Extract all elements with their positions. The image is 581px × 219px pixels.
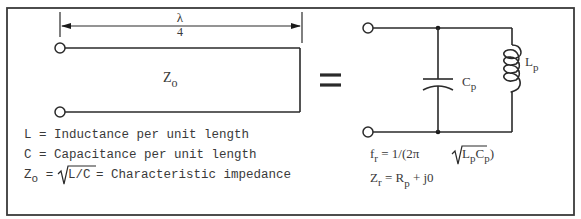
svg-text:Zr = Rp + j0: Zr = Rp + j0 [370,170,434,189]
definition-characteristic-impedance: Zo = L/C = Characteristic impedance [24,166,291,185]
capacitor-label: Cp [462,74,477,92]
line-impedance-label: Zo [163,70,178,90]
svg-text:= Characteristic impedance: = Characteristic impedance [96,168,291,182]
input-terminal-bottom [55,107,65,117]
capacitor-symbol [423,28,453,132]
dimension-label-numerator: λ [177,10,184,25]
inductor-label: Lp [525,54,539,73]
resonant-frequency-equation: fr = 1/(2π LpCp) [370,146,494,164]
output-terminal-bottom [363,127,373,137]
definition-inductance: L = Inductance per unit length [24,128,249,142]
inductor-symbol [504,28,521,132]
output-terminal-top [363,23,373,33]
quarter-wave-line-diagram: λ 4 Zo L = Inductance per unit length C … [0,0,581,219]
svg-text:L/C: L/C [68,168,91,182]
svg-text:fr = 1/(2π: fr = 1/(2π [370,146,420,164]
equivalence-sign [320,75,341,85]
transmission-line-section: λ 4 Zo [55,10,302,117]
svg-text:Zo =: Zo = [24,168,53,185]
definition-capacitance: C = Capacitance per unit length [24,148,257,162]
resonant-impedance-equation: Zr = Rp + j0 [370,170,434,189]
dimension-label-denominator: 4 [177,25,183,39]
parallel-lc-circuit: Cp Lp [363,23,539,137]
input-terminal-top [55,43,65,53]
definitions: L = Inductance per unit length C = Capac… [24,128,291,185]
svg-text:LpCp): LpCp) [462,146,494,164]
